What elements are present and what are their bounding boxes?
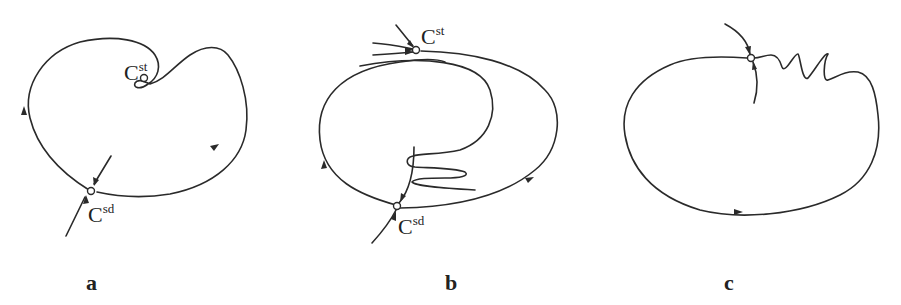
separatrix-in-lower-a [66, 197, 85, 236]
panel-b: Cst Csd b [319, 23, 557, 295]
arrow-icon [210, 144, 219, 151]
arrow-icon [407, 40, 414, 48]
arrow-icon [391, 211, 396, 221]
arrow-icon [525, 177, 534, 183]
orbit-curve-c [624, 54, 879, 215]
saddle-point-b [394, 203, 401, 210]
inner-curve-b [360, 61, 493, 190]
separatrix-in-lower-b [372, 210, 396, 243]
arrow-icon [745, 46, 751, 55]
saddle-point-a [88, 188, 95, 195]
figure: Cst Csd a Cst Csd b [0, 0, 901, 305]
panel-a: Cst Csd a [21, 38, 247, 295]
panel-label-b: b [445, 270, 457, 295]
panel-label-c: c [724, 270, 734, 295]
arrow-icon [21, 106, 27, 115]
arrow-icon [734, 209, 743, 215]
incoming-top-c [725, 24, 750, 54]
label-csd-a: Csd [88, 201, 115, 227]
panel-label-a: a [86, 270, 97, 295]
stable-point-a [141, 75, 148, 82]
stable-point-b [413, 47, 420, 54]
left-orbit-b [319, 59, 445, 205]
label-csd-b: Csd [398, 213, 425, 239]
panel-c: c [624, 24, 879, 295]
label-cst-b: Cst [421, 23, 445, 49]
point-c [748, 55, 755, 62]
